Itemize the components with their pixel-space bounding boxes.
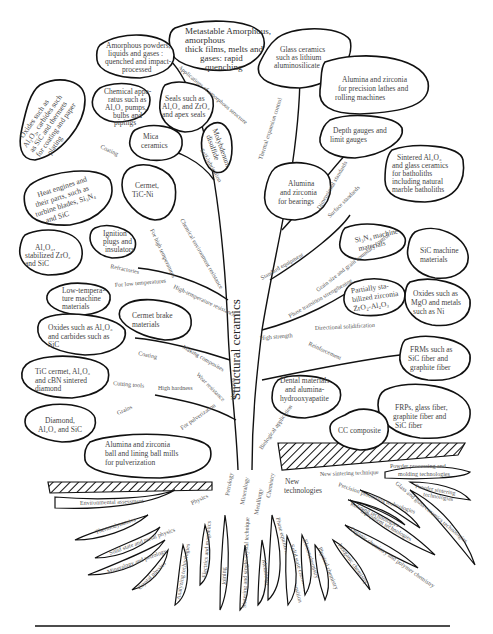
ground-hatch-left [48,482,212,493]
node-alumina-bearings: Alumina and zirconia for bearings [265,163,331,220]
node-tic-cermet: TiC cermet, Al₂O₃ and cBN sintered diamo… [22,356,109,398]
svg-text:Cermet brake: Cermet brake [132,311,173,320]
svg-text:Alumina: Alumina [288,179,315,188]
node-molybdenum: Molybdenum disulfide [202,123,233,173]
svg-text:Hardness: Hardness [230,377,236,400]
svg-text:and apex seals: and apex seals [162,110,205,119]
node-diamond: Diamond, Al₂O₃ and SiC [25,404,95,442]
svg-text:graphite fiber: graphite fiber [410,363,451,372]
svg-text:Al₂O₃ and SiC: Al₂O₃ and SiC [38,425,82,434]
svg-text:Powder processing and: Powder processing and [390,463,446,469]
svg-text:SiC: SiC [48,340,59,349]
node-cermet-tic: Cermet, TiC-Ni [122,165,176,220]
svg-text:Oxides such as: Oxides such as [413,289,458,298]
svg-text:Cutting tools: Cutting tools [113,380,145,389]
svg-text:New sintering technique: New sintering technique [320,469,379,477]
svg-text:New: New [285,477,300,486]
svg-text:Mineralogy: Mineralogy [239,477,250,506]
svg-text:such as Ni: such as Ni [413,307,444,316]
node-oxides-mgo: Oxides such as MgO and metals such as Ni [405,279,470,325]
svg-text:Metallurgy: Metallurgy [253,488,264,515]
node-metastable: Metastable Amorphous, amorphous thick fi… [169,21,271,72]
svg-text:materials: materials [420,255,448,264]
svg-text:materials: materials [62,302,90,311]
svg-text:For pulverization: For pulverization [179,402,216,431]
svg-text:For low temperatures: For low temperatures [115,277,167,288]
svg-text:SiC fiber: SiC fiber [395,421,423,430]
node-ignition: Ignition plugs and insulators [90,226,136,258]
svg-text:diamond: diamond [35,384,61,393]
svg-text:pipings: pipings [114,118,136,127]
svg-text:Cermet,: Cermet, [135,181,159,190]
svg-text:For high temperatures: For high temperatures [149,228,177,279]
node-alumina-ball: Alumina and zirconia ball and lining bal… [85,434,211,478]
node-mica: Mica ceramics [130,126,183,161]
svg-text:rolling machines: rolling machines [335,93,385,102]
node-sintered-al2o3: Sintered Al₂O₃ and glass ceramics for ba… [385,146,464,202]
svg-text:Reinforcement: Reinforcement [308,340,343,361]
svg-text:hydrooxyapatite: hydrooxyapatite [280,394,329,403]
svg-text:molding technologies: molding technologies [398,471,450,477]
svg-text:CC composite: CC composite [338,426,381,435]
node-al2o3-stabilized: Al₂O₃, stabilized ZrO₂ and SiC [20,230,82,275]
structural-ceramics-tree-diagram: Metastable Amorphous, amorphous thick fi… [0,0,493,634]
svg-text:Mica: Mica [143,132,159,141]
svg-text:SiC machine: SiC machine [420,246,459,255]
svg-text:aluminosilicate: aluminosilicate [274,61,320,70]
svg-text:and zirconia: and zirconia [280,188,318,197]
node-chemical-apparatus: Chemical appa- ratus such as Al₂O₃ pumps… [92,84,151,127]
svg-text:Dental materials: Dental materials [280,376,329,385]
svg-text:for precision lathes and: for precision lathes and [338,84,408,93]
svg-text:Wear resistance: Wear resistance [195,371,226,402]
svg-text:Alumina and zirconia: Alumina and zirconia [342,75,408,84]
svg-text:Environmental assessment: Environmental assessment [80,498,144,506]
node-cermet-brake: Cermet brake materials [119,300,191,340]
svg-text:Directional solidification: Directional solidification [315,322,375,331]
svg-text:TiC-Ni: TiC-Ni [132,190,153,199]
svg-text:Refractories: Refractories [110,263,141,275]
svg-text:marble batholiths: marble batholiths [392,185,444,194]
svg-text:Petrology: Petrology [224,472,234,496]
svg-text:Grains: Grains [116,403,134,415]
svg-text:High strength: High strength [260,332,293,341]
node-heat-engines: Heat engines and their parts, such as tu… [24,171,112,227]
node-frps: FRPs, glass fiber, graphite fiber and Si… [378,384,470,438]
svg-text:limit gauges: limit gauges [330,135,367,144]
svg-text:quenching: quenching [205,62,243,72]
svg-text:Coating: Coating [100,143,120,156]
node-alumina-precision: Alumina and zirconia for precision lathe… [320,56,429,114]
node-oxides-coating: Oxides such as Al₂O₃, carbides such as S… [14,80,85,163]
svg-text:graphite fiber and: graphite fiber and [393,412,447,421]
svg-text:insulators: insulators [105,245,134,254]
svg-text:Making composites: Making composites [182,344,226,373]
node-sic-machine: SiC machine materials [408,229,469,279]
node-cc-composite: CC composite [330,409,388,450]
svg-text:Physics: Physics [190,492,210,505]
svg-text:for pulverization: for pulverization [105,458,155,467]
svg-text:Alumina and zirconia: Alumina and zirconia [105,440,171,449]
svg-text:and alumina-: and alumina- [285,385,325,394]
svg-text:materials: materials [132,320,160,329]
node-amorphous-powders: Amorphous powders, liquids and gases : q… [97,35,174,78]
svg-text:Sintering and single-crystal t: Sintering and single-crystal technique [241,517,250,608]
svg-text:technologies: technologies [284,486,322,495]
svg-text:Crystal physics: Crystal physics [136,560,167,591]
svg-text:Inorganic chemistry: Inorganic chemistry [337,542,369,585]
svg-text:processed: processed [122,65,152,74]
node-oxides-al2o3-carbides: Oxides such as Al₂O₃ and carbides such a… [38,314,126,355]
svg-text:for bearings: for bearings [278,197,314,206]
svg-text:FRMs such as: FRMs such as [410,345,453,354]
svg-text:Coating: Coating [138,350,158,360]
svg-text:Depth gauges and: Depth gauges and [333,126,387,135]
svg-text:MgO and metals: MgO and metals [411,298,461,307]
svg-text:ball and lining ball mills: ball and lining ball mills [105,449,178,458]
svg-text:Chemistry: Chemistry [265,473,275,499]
svg-text:FRPs, glass fiber,: FRPs, glass fiber, [395,403,448,412]
svg-text:Joining: Joining [221,567,227,585]
svg-text:SiC fiber and: SiC fiber and [408,354,448,363]
svg-text:High hardness: High hardness [158,385,193,391]
svg-text:TiC cermet, Al₂O₃: TiC cermet, Al₂O₃ [35,367,91,376]
node-low-temp: Low-tempera- ture machine materials [47,283,110,315]
node-frms: FRMs such as SiC fiber and graphite fibe… [400,336,470,380]
node-partially-stabilized: Partially sta- bilized zirconia ZrO₂-Al₂… [344,279,405,316]
